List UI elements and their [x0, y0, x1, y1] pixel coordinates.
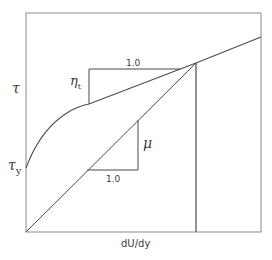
- plot-frame: [26, 13, 261, 232]
- y-axis-label: τ: [12, 80, 20, 96]
- upper-run-label: 1.0: [126, 58, 141, 68]
- x-axis-label: dU/dy: [121, 238, 150, 249]
- yield-stress-label: τy: [8, 157, 22, 176]
- laminar-slope-label: μ: [143, 135, 152, 151]
- shear-stress-diagram: τ τy ηt μ 1.0 1.0 dU/dy: [0, 0, 272, 260]
- lower-slope-triangle: [87, 120, 138, 170]
- lower-run-label: 1.0: [106, 174, 121, 184]
- turbulent-slope-label: ηt: [70, 73, 82, 91]
- newtonian-line: [26, 63, 196, 232]
